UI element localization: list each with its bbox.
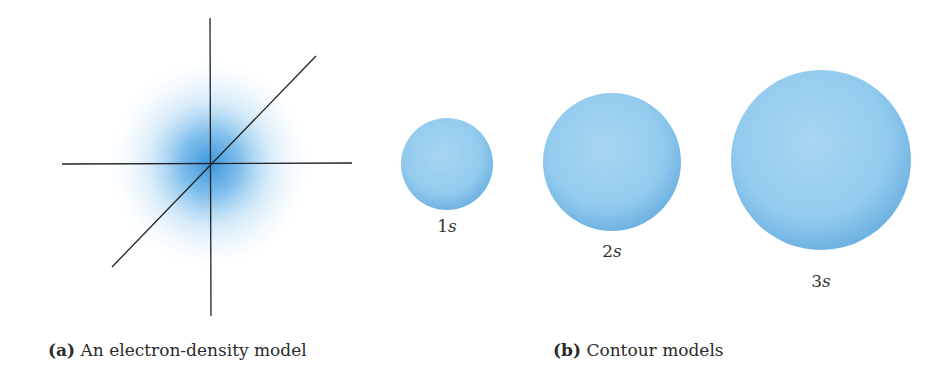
orbital-figure — [0, 0, 945, 390]
caption-a-tag: (a) — [48, 340, 75, 360]
electron-density-model — [62, 18, 352, 316]
caption-a: (a) An electron-density model — [48, 340, 307, 360]
caption-b-tag: (b) — [553, 340, 581, 360]
contour-models — [401, 70, 911, 250]
orbital-sphere-3s — [731, 70, 911, 250]
orbital-sphere-1s — [401, 118, 493, 210]
caption-b-text: Contour models — [586, 340, 723, 360]
orbital-sphere-2s — [543, 93, 681, 231]
caption-a-text: An electron-density model — [81, 340, 307, 360]
orbital-label-1s: 1s — [437, 216, 457, 236]
caption-b: (b) Contour models — [553, 340, 724, 360]
orbital-label-3s: 3s — [811, 271, 831, 291]
orbital-label-2s: 2s — [602, 241, 622, 261]
